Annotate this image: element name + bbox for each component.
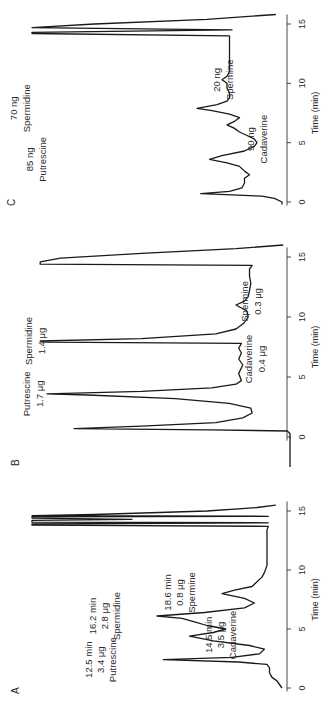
tick-label: 0 (297, 199, 307, 204)
chromatogram-figure: C 051015Time (min)85 ngPutrescine70 ngSp… (0, 0, 330, 709)
peak-annotation: 2.8 μg (99, 603, 110, 630)
peak-annotation: 12.5 min (83, 641, 94, 677)
chromatogram-trace (32, 505, 282, 688)
tick-label: 15 (297, 252, 307, 262)
peak-annotation: Putrescine (21, 371, 32, 416)
peak-annotation: 3.5 μg (215, 622, 226, 649)
peak-annotation: Spermine (186, 572, 197, 613)
axis-title: Time (min) (310, 92, 320, 135)
peak-annotation: 85 ng (24, 147, 35, 171)
peak-annotation: Cadaverine (258, 115, 269, 164)
peak-annotation: 14.5 min (203, 617, 214, 653)
panel-a: A 051015Time (min)12.5 min3.4 μgPutresci… (10, 502, 320, 694)
panel-label-c: C (6, 199, 17, 206)
tick-label: 10 (297, 565, 307, 575)
peak-annotation: 20 ng (211, 68, 222, 92)
axis-title: Time (min) (310, 578, 320, 621)
tick-label: 5 (297, 374, 307, 379)
peak-annotation: 1.7 μg (34, 380, 45, 407)
tick-label: 5 (297, 140, 307, 145)
panel-c: C 051015Time (min)85 ngPutrescine70 ngSp… (6, 15, 320, 207)
peak-annotation: 70 ng (8, 96, 19, 120)
peak-annotation: Spermine (239, 281, 250, 322)
peak-annotation: 0.3 μg (252, 288, 263, 315)
tick-label: 10 (297, 312, 307, 322)
peak-annotation: 0.4 μg (256, 346, 267, 373)
peak-annotation: 90 ng (245, 127, 256, 151)
tick-label: 15 (297, 506, 307, 516)
peak-annotation: Putrescine (37, 137, 48, 182)
tick-label: 0 (297, 685, 307, 690)
peak-annotation: Putrescine (107, 637, 118, 682)
peak-annotation: 16.2 min (87, 598, 98, 634)
peak-annotation: 0.8 μg (174, 579, 185, 606)
tick-label: 5 (297, 626, 307, 631)
peak-annotation: Spermidine (21, 84, 32, 132)
peak-annotation: Cadaverine (227, 611, 238, 660)
peak-annotation: Cadaverine (243, 335, 254, 384)
chromatogram-trace (32, 15, 282, 205)
peak-annotation: 1.4 μg (36, 328, 47, 355)
peak-annotation: Spermidine (23, 317, 34, 365)
peak-annotation: 18.6 min (162, 574, 173, 610)
panel-b: B 051015Time (min)Putrescine1.7 μgSpermi… (10, 245, 320, 467)
tick-label: 10 (297, 78, 307, 88)
panel-label-b: B (10, 459, 21, 466)
tick-label: 15 (297, 19, 307, 29)
peak-annotation: Spermidine (111, 592, 122, 640)
peak-annotation: Spermine (224, 59, 235, 100)
panel-label-a: A (10, 687, 21, 694)
tick-label: 0 (297, 434, 307, 439)
axis-title: Time (min) (310, 326, 320, 369)
peak-annotation: 3.4 μg (95, 646, 106, 673)
